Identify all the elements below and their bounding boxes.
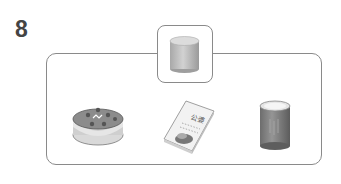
can-icon <box>252 95 302 153</box>
option-can[interactable] <box>252 95 302 153</box>
reference-box <box>157 25 213 83</box>
question-number: 8 <box>15 16 28 43</box>
cake-icon <box>68 95 128 150</box>
cylinder-icon <box>158 26 211 81</box>
book-icon: 公婆 <box>158 95 220 155</box>
option-cake[interactable] <box>68 95 128 150</box>
option-book[interactable]: 公婆 <box>158 95 220 155</box>
